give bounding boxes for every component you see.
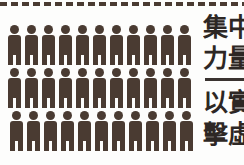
caption-divider-rule — [205, 78, 244, 81]
person-figure-leg-l — [93, 97, 98, 108]
person-figure-head — [163, 68, 172, 77]
person-figure-head — [114, 111, 123, 120]
person-figure-body — [178, 78, 191, 98]
cut-line-dash — [77, 2, 84, 6]
person-figure-leg-r — [16, 54, 21, 65]
person-figure-leg-r — [101, 97, 106, 108]
person-figure-body — [163, 121, 176, 141]
person-figure-head — [10, 68, 19, 77]
person-figure-leg-l — [8, 97, 13, 108]
person-figure-leg-l — [27, 140, 32, 151]
person-figure-icon — [126, 68, 140, 108]
person-figure-body — [110, 35, 123, 55]
person-figure-body — [76, 35, 89, 55]
person-figure-body — [178, 35, 191, 55]
person-figure-icon — [109, 68, 123, 108]
caption-line-1: 集中 — [203, 12, 244, 43]
person-figure-leg-l — [129, 140, 134, 151]
person-figure-icon — [60, 111, 74, 151]
person-figure-icon — [94, 111, 108, 151]
pictogram-row — [7, 66, 197, 108]
person-figure-leg-r — [103, 140, 108, 151]
person-figure-leg-r — [169, 54, 174, 65]
person-figure-icon — [7, 25, 21, 65]
pictogram-row — [7, 23, 197, 65]
person-figure-head — [146, 68, 155, 77]
caption-line-4: 擊虛 — [203, 119, 244, 151]
caption-line-3: 以實 — [203, 87, 244, 119]
person-figure-body — [25, 78, 38, 98]
person-figure-leg-l — [127, 97, 132, 108]
person-figure-head — [10, 25, 19, 34]
person-figure-icon — [145, 111, 159, 151]
person-figure-icon — [77, 111, 91, 151]
person-figure-leg-r — [33, 97, 38, 108]
person-figure-icon — [75, 68, 89, 108]
person-figure-icon — [143, 25, 157, 65]
person-figure-head — [129, 68, 138, 77]
person-figure-icon — [109, 25, 123, 65]
person-figure-leg-l — [95, 140, 100, 151]
person-figure-leg-l — [112, 140, 117, 151]
caption-panel: 集中 力量 以實 擊虛 — [203, 12, 244, 165]
person-figure-leg-r — [154, 140, 159, 151]
person-figure-head — [129, 25, 138, 34]
person-figure-leg-l — [59, 97, 64, 108]
person-figure-leg-r — [186, 54, 191, 65]
person-figure-icon — [24, 25, 38, 65]
person-figure-head — [44, 25, 53, 34]
cut-line-dash — [0, 2, 7, 6]
cut-line-dash — [231, 2, 238, 6]
pictogram-row — [9, 109, 197, 151]
person-figure-head — [95, 25, 104, 34]
person-figure-body — [146, 121, 159, 141]
person-figure-icon — [41, 68, 55, 108]
cut-line-dash — [99, 2, 106, 6]
person-figure-head — [97, 111, 106, 120]
person-figure-leg-l — [76, 54, 81, 65]
cut-line-dash — [165, 2, 172, 6]
cut-line-dash — [187, 2, 194, 6]
person-figure-head — [63, 111, 72, 120]
person-figure-body — [161, 78, 174, 98]
person-figure-head — [29, 111, 38, 120]
person-figure-head — [112, 68, 121, 77]
person-figure-body — [27, 121, 40, 141]
person-figure-leg-l — [146, 140, 151, 151]
person-figure-leg-l — [76, 97, 81, 108]
person-figure-leg-r — [33, 54, 38, 65]
person-figure-leg-l — [42, 97, 47, 108]
person-figure-body — [8, 35, 21, 55]
person-figure-leg-r — [50, 97, 55, 108]
person-figure-head — [27, 68, 36, 77]
person-figure-icon — [92, 68, 106, 108]
person-figure-leg-r — [18, 140, 23, 151]
person-figure-leg-r — [67, 54, 72, 65]
cut-line-dash — [154, 2, 161, 6]
person-figure-icon — [58, 25, 72, 65]
person-figure-body — [144, 78, 157, 98]
person-figure-body — [25, 35, 38, 55]
person-figure-head — [78, 25, 87, 34]
person-figure-head — [61, 68, 70, 77]
cut-line-dash — [143, 2, 150, 6]
person-figure-head — [44, 68, 53, 77]
person-figure-icon — [26, 111, 40, 151]
person-figure-body — [144, 35, 157, 55]
person-figure-leg-r — [188, 140, 193, 151]
person-figure-leg-r — [120, 140, 125, 151]
person-figure-icon — [160, 25, 174, 65]
person-figure-head — [27, 25, 36, 34]
person-figure-body — [127, 78, 140, 98]
person-figure-head — [46, 111, 55, 120]
person-figure-leg-r — [16, 97, 21, 108]
caption-lower-block: 以實 擊虛 — [203, 87, 244, 151]
person-figure-leg-l — [110, 97, 115, 108]
person-figure-icon — [24, 68, 38, 108]
cut-line-dash — [176, 2, 183, 6]
person-figure-body — [42, 78, 55, 98]
person-figure-icon — [43, 111, 57, 151]
person-figure-leg-r — [152, 54, 157, 65]
person-figure-head — [131, 111, 140, 120]
person-figure-leg-r — [101, 54, 106, 65]
